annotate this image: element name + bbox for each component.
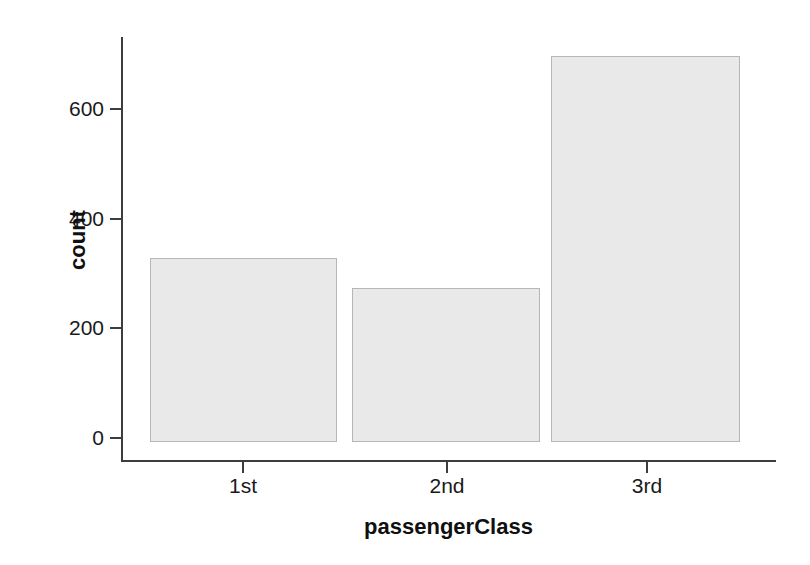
bar-1st: [150, 258, 337, 442]
x-tick-label-1st: 1st: [183, 474, 303, 498]
x-tick-label-2nd: 2nd: [387, 474, 507, 498]
y-tick-label-0: 0: [4, 427, 104, 448]
y-tick-label-200: 200: [4, 317, 104, 338]
bar-3rd: [551, 56, 740, 442]
y-tick-mark-200: [110, 327, 121, 329]
x-axis-line: [121, 460, 776, 462]
y-tick-mark-600: [110, 108, 121, 110]
x-tick-label-3rd: 3rd: [587, 474, 707, 498]
y-tick-mark-0: [110, 437, 121, 439]
x-axis-title: passengerClass: [121, 514, 776, 540]
y-tick-label-600: 600: [4, 98, 104, 119]
y-axis-title: count: [18, 180, 138, 300]
bar-chart: 600 400 200 0 1st 2nd 3rd count passenge…: [0, 0, 810, 565]
x-tick-mark-1st: [242, 462, 244, 473]
x-tick-mark-3rd: [646, 462, 648, 473]
x-tick-mark-2nd: [446, 462, 448, 473]
bar-2nd: [352, 288, 540, 442]
